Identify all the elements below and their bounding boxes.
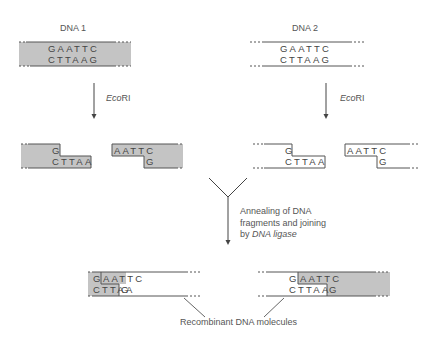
dna1-left-top: G <box>52 145 62 156</box>
annealing-line2: fragments and joining <box>240 218 326 230</box>
enzyme-label-left: EcoRI <box>106 93 131 103</box>
enzyme-name-plain: RI <box>356 93 365 103</box>
recomb-right-top-rest: AATTC <box>300 273 341 284</box>
enzyme-name-plain: RI <box>122 93 131 103</box>
recomb-right-bottom-first: CTTAA <box>289 284 330 295</box>
ecori-arrow-right <box>324 83 329 119</box>
dna1-left-bottom: CTTAA <box>52 156 93 167</box>
enzyme-name-italic: Eco <box>340 93 356 103</box>
recomb-left-top-rest: AATTC <box>103 273 144 284</box>
caption-pointer-left <box>184 298 205 317</box>
recombinant-caption: Recombinant DNA molecules <box>180 317 297 327</box>
recomb-right-top-first: G <box>289 273 299 284</box>
dna2-left-bottom: CTTAA <box>285 156 326 167</box>
annealing-description: Annealing of DNA fragments and joining b… <box>240 206 326 241</box>
dna1-right-bottom: G <box>146 156 156 167</box>
dna1-right-top: AATTC <box>114 145 155 156</box>
annealing-line3: by DNA ligase <box>240 229 326 241</box>
annealing-line3-prefix: by <box>240 229 252 239</box>
dna2-title: DNA 2 <box>292 23 318 33</box>
ecori-arrow-left <box>92 83 97 119</box>
dna2-right-bottom: G <box>379 156 389 167</box>
dna1-bottom-strand: CTTAAG <box>48 54 99 65</box>
dna2-bottom-strand: CTTAAG <box>280 54 331 65</box>
dna1-top-strand: GAATTC <box>48 43 99 54</box>
annealing-line1: Annealing of DNA <box>240 206 326 218</box>
dna2-left-top: G <box>285 145 295 156</box>
dna-ligase-label: DNA ligase <box>252 229 297 239</box>
enzyme-label-right: EcoRI <box>340 93 365 103</box>
recomb-right-bottom-rest: G <box>329 284 339 295</box>
caption-pointer-right <box>264 298 284 317</box>
recomb-left-top-first: G <box>93 273 103 284</box>
recomb-left-bottom-rest: G <box>121 284 131 295</box>
dna2-right-top: AATTC <box>347 145 388 156</box>
dna2-top-strand: GAATTC <box>280 43 331 54</box>
dna1-title: DNA 1 <box>60 23 86 33</box>
enzyme-name-italic: Eco <box>106 93 122 103</box>
